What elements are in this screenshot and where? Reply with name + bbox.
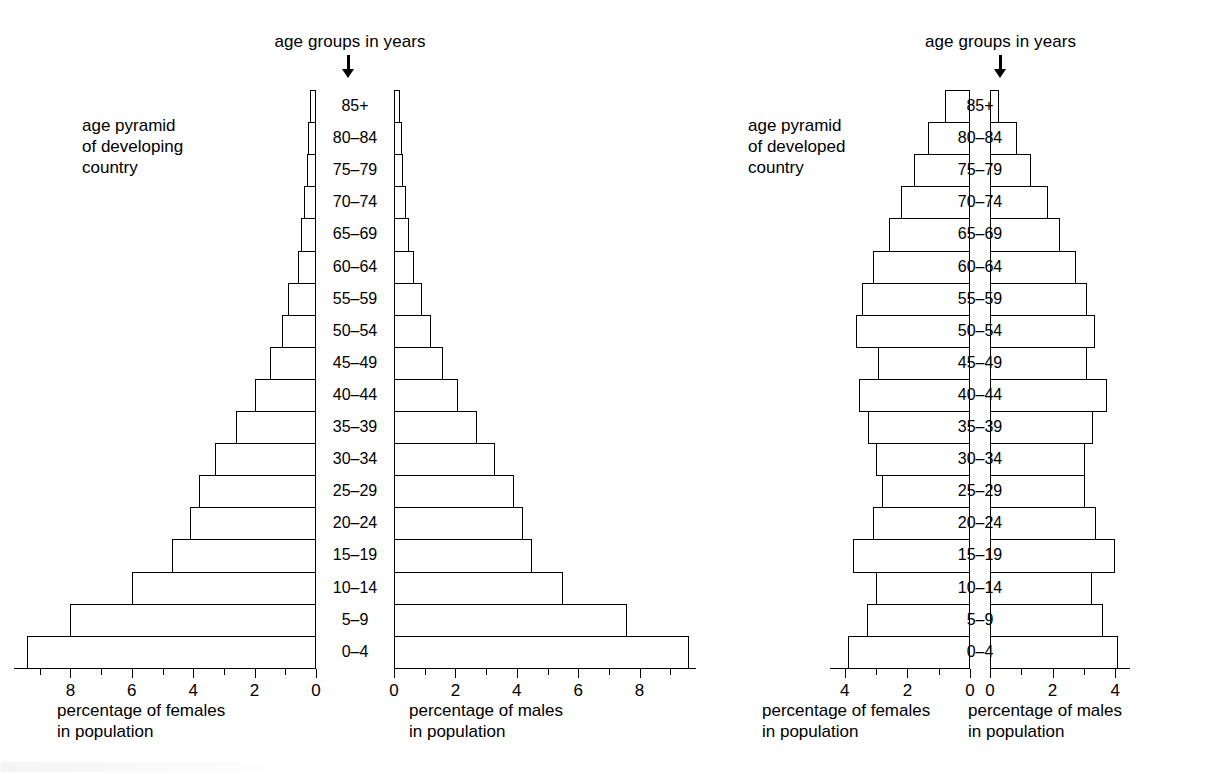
- age-group-label: 15–19: [948, 546, 1012, 564]
- age-group-label: 50–54: [948, 322, 1012, 340]
- pyramid-bar-male: [394, 154, 403, 187]
- axis-tick: [907, 669, 908, 678]
- axis-tick: [548, 669, 549, 675]
- pyramid-bar-female: [70, 604, 316, 637]
- chart-developing-country: age groups in years age pyramid of devel…: [0, 0, 710, 774]
- axis-tick: [990, 669, 991, 678]
- pyramid-bar-male: [394, 539, 532, 572]
- age-group-label: 75–79: [316, 161, 394, 179]
- age-group-label: 70–74: [948, 193, 1012, 211]
- age-group-label: 0–4: [316, 643, 394, 661]
- axis-tick: [285, 669, 286, 675]
- pyramid-bar-male: [394, 411, 477, 444]
- pyramid-bar-male: [394, 379, 458, 412]
- axis-tick-label: 2: [250, 681, 259, 701]
- age-group-label: 55–59: [948, 290, 1012, 308]
- axis-tick: [1053, 669, 1054, 678]
- age-group-label: 70–74: [316, 193, 394, 211]
- axis-tick: [224, 669, 225, 675]
- axis-tick: [132, 669, 133, 678]
- axis-tick-label: 4: [840, 681, 849, 701]
- pyramid-bar-male: [394, 122, 402, 155]
- age-groups-header-label: age groups in years: [274, 32, 425, 52]
- age-group-label: 40–44: [948, 386, 1012, 404]
- axis-tick-label: 0: [965, 681, 974, 701]
- pyramid-bar-female: [298, 251, 316, 284]
- age-group-label: 65–69: [316, 225, 394, 243]
- pyramid-bar-female: [190, 507, 316, 540]
- age-group-label: 25–29: [316, 482, 394, 500]
- age-group-labels-developed: 85+80–8475–7970–7465–6960–6455–5950–5445…: [948, 90, 1012, 668]
- axis-tick-label: 6: [127, 681, 136, 701]
- age-group-label: 45–49: [948, 354, 1012, 372]
- age-group-label: 65–69: [948, 225, 1012, 243]
- axis-tick: [517, 669, 518, 678]
- age-group-label: 60–64: [948, 258, 1012, 276]
- pyramid-bar-female: [304, 186, 316, 219]
- axis-tick-label: 4: [1110, 681, 1119, 701]
- pyramid-bar-female: [270, 347, 316, 380]
- axis-tick: [316, 669, 317, 678]
- pyramid-bar-female: [236, 411, 316, 444]
- axis-tick-label: 2: [451, 681, 460, 701]
- age-group-label: 20–24: [316, 514, 394, 532]
- age-group-label: 35–39: [948, 418, 1012, 436]
- age-group-label: 80–84: [316, 129, 394, 147]
- axis-tick: [609, 669, 610, 675]
- male-bars-developing: [394, 90, 696, 668]
- axis-tick-label: 0: [985, 681, 994, 701]
- female-bars-developing: [14, 90, 316, 668]
- age-group-label: 5–9: [316, 611, 394, 629]
- axis-tick: [640, 669, 641, 678]
- pyramid-bar-male: [394, 604, 627, 637]
- pyramid-bar-female: [215, 443, 316, 476]
- female-axis-developed: 024: [830, 668, 970, 669]
- age-groups-header-label: age groups in years: [925, 32, 1076, 52]
- pyramid-bar-male: [394, 636, 689, 669]
- figure-canvas: age groups in years age pyramid of devel…: [0, 0, 1214, 774]
- age-group-label: 5–9: [948, 611, 1012, 629]
- age-group-label: 55–59: [316, 290, 394, 308]
- male-axis-caption-developing: percentage of males in population: [409, 700, 563, 742]
- chart-developed-country: age groups in years age pyramid of devel…: [740, 0, 1214, 774]
- pyramid-bar-female: [282, 315, 316, 348]
- pyramid-bar-male: [394, 218, 409, 251]
- axis-tick: [845, 669, 846, 678]
- age-group-label: 35–39: [316, 418, 394, 436]
- axis-tick: [193, 669, 194, 678]
- pyramid-bar-male: [394, 475, 514, 508]
- axis-tick-label: 4: [188, 681, 197, 701]
- age-group-label: 10–14: [948, 579, 1012, 597]
- chart-header-developed: age groups in years: [740, 32, 1214, 52]
- male-axis-developing: 02468: [394, 668, 696, 669]
- axis-tick-label: 6: [573, 681, 582, 701]
- male-axis-developed: 024: [990, 668, 1130, 669]
- pyramid-bar-female: [199, 475, 316, 508]
- pyramid-bar-male: [394, 315, 431, 348]
- axis-tick-label: 2: [903, 681, 912, 701]
- pyramid-bar-female: [308, 122, 316, 155]
- axis-tick: [394, 669, 395, 678]
- pyramid-bar-female: [301, 218, 316, 251]
- age-group-label: 85+: [948, 97, 1012, 115]
- age-group-label: 10–14: [316, 579, 394, 597]
- chart-header-developing: age groups in years: [0, 32, 710, 52]
- axis-tick: [486, 669, 487, 675]
- male-axis-caption-developed: percentage of males in population: [968, 700, 1122, 742]
- axis-tick: [1115, 669, 1116, 678]
- axis-tick-label: 2: [1048, 681, 1057, 701]
- axis-tick: [876, 669, 877, 675]
- pyramid-bar-male: [394, 251, 414, 284]
- age-group-label: 30–34: [948, 450, 1012, 468]
- age-group-label: 15–19: [316, 546, 394, 564]
- pyramid-bar-female: [255, 379, 316, 412]
- age-group-label: 20–24: [948, 514, 1012, 532]
- age-group-label: 25–29: [948, 482, 1012, 500]
- female-axis-caption-developed: percentage of females in population: [762, 700, 930, 742]
- age-group-label: 60–64: [316, 258, 394, 276]
- axis-tick-label: 4: [512, 681, 521, 701]
- pyramid-bar-female: [288, 283, 316, 316]
- axis-tick: [70, 669, 71, 678]
- pyramid-bar-female: [307, 154, 316, 187]
- axis-tick-label: 8: [635, 681, 644, 701]
